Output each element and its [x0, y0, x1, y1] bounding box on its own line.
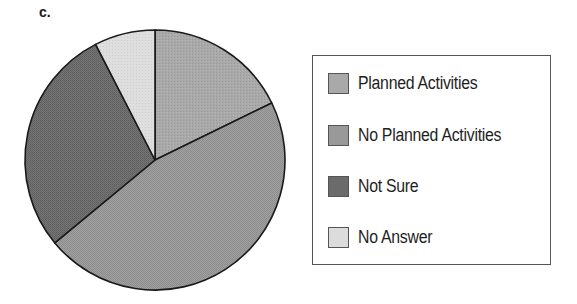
- swatch-not-sure: [328, 176, 349, 197]
- legend-label: Planned Activities: [358, 73, 477, 94]
- swatch-no-answer: [328, 227, 349, 248]
- legend-label: Not Sure: [358, 176, 418, 197]
- legend-item-not-sure: Not Sure: [328, 175, 427, 197]
- legend-item-no-planned-activities: No Planned Activities: [328, 124, 521, 146]
- legend-item-no-answer: No Answer: [328, 226, 442, 248]
- legend-item-planned-activities: Planned Activities: [328, 72, 494, 94]
- swatch-planned-activities: [328, 73, 349, 94]
- legend-label: No Answer: [358, 227, 432, 248]
- legend-label: No Planned Activities: [358, 125, 501, 146]
- swatch-no-planned-activities: [328, 125, 349, 146]
- chart-legend: Planned Activities No Planned Activities…: [312, 55, 551, 265]
